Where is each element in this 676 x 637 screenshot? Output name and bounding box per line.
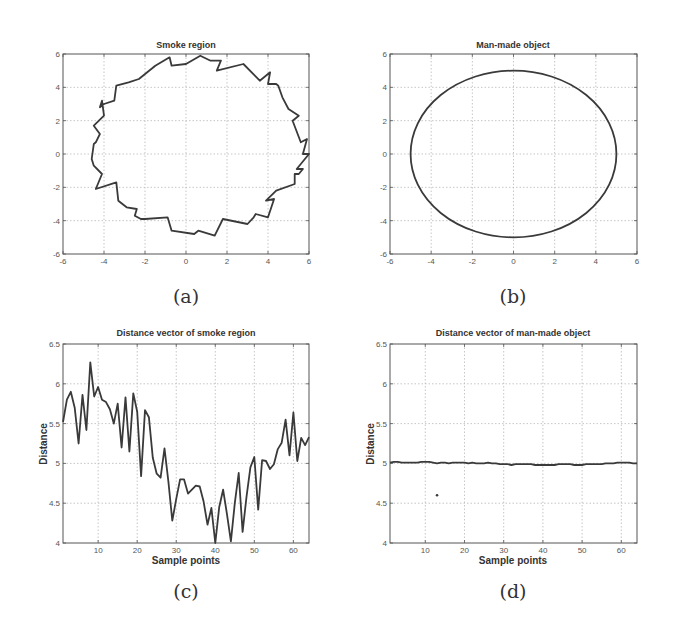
axes-box xyxy=(390,344,637,543)
caption-d: (d) xyxy=(500,580,527,602)
y-tick-label: 4 xyxy=(383,539,388,548)
y-tick-label: 4.5 xyxy=(376,499,388,508)
x-tick-label: 30 xyxy=(499,546,508,555)
x-tick-label: 10 xyxy=(421,546,430,555)
chart-distance-man-made: 10203040506044.555.566.5 xyxy=(0,0,676,637)
y-tick-label: 5 xyxy=(383,459,388,468)
x-tick-label: 20 xyxy=(460,546,469,555)
x-tick-label: 60 xyxy=(617,546,626,555)
outlier-dot xyxy=(436,494,439,497)
xlabel-d: Sample points xyxy=(479,555,547,566)
y-tick-label: 6 xyxy=(383,380,388,389)
y-tick-label: 6.5 xyxy=(376,340,388,349)
x-tick-label: 40 xyxy=(538,546,547,555)
y-tick-label: 5.5 xyxy=(376,420,388,429)
x-tick-label: 50 xyxy=(578,546,587,555)
